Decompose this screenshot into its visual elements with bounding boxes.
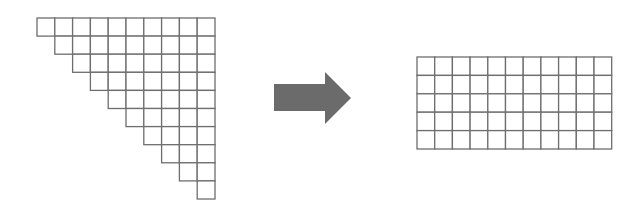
rectangle-cell [470, 112, 488, 130]
triangle-cell [90, 72, 108, 90]
rectangle-cell [523, 131, 541, 149]
rectangle-cell [452, 57, 470, 75]
triangle-cell [144, 127, 162, 145]
triangle-cell [179, 109, 197, 127]
rectangle-cell [488, 94, 506, 112]
rectangle-cell [541, 75, 559, 93]
rectangle-cell [435, 131, 453, 149]
rectangle-cell [417, 94, 435, 112]
rectangle-cell [541, 112, 559, 130]
rectangle-cell [470, 57, 488, 75]
rectangle-cell [470, 131, 488, 149]
triangle-cell [162, 145, 180, 163]
rectangle-cell [488, 112, 506, 130]
rectangle-cell [470, 75, 488, 93]
triangle-cell [162, 36, 180, 54]
rectangle-cell [523, 112, 541, 130]
rectangle-cell [594, 75, 612, 93]
rectangle-cell [541, 57, 559, 75]
staircase-triangle-grid [37, 18, 215, 199]
rectangle-cell [594, 94, 612, 112]
triangle-cell [197, 72, 215, 90]
triangle-cell [144, 36, 162, 54]
rectangle-cell [452, 131, 470, 149]
triangle-cell [179, 36, 197, 54]
triangle-cell [126, 54, 144, 72]
triangle-cell [162, 127, 180, 145]
rectangle-cell [523, 94, 541, 112]
triangle-cell [162, 90, 180, 108]
triangle-cell [73, 54, 91, 72]
rectangle-grid [417, 57, 612, 149]
triangle-cell [179, 72, 197, 90]
triangle-cell [55, 18, 73, 36]
rectangle-cell [576, 75, 594, 93]
rectangle-cell [435, 94, 453, 112]
rectangle-cell [594, 57, 612, 75]
triangle-cell [179, 90, 197, 108]
triangle-cell [55, 36, 73, 54]
rectangle-cell [576, 94, 594, 112]
rectangle-cell [576, 131, 594, 149]
triangle-cell [126, 109, 144, 127]
triangle-cell [197, 109, 215, 127]
triangle-cell [144, 54, 162, 72]
triangle-cell [197, 36, 215, 54]
rectangle-cell [506, 94, 524, 112]
triangle-cell [162, 109, 180, 127]
right-arrow-icon [274, 72, 351, 124]
rectangle-cell [594, 131, 612, 149]
triangle-cell [144, 18, 162, 36]
rectangle-cell [452, 94, 470, 112]
rectangle-cell [594, 112, 612, 130]
rectangle-cell [435, 57, 453, 75]
rectangle-cell [541, 131, 559, 149]
rectangle-cell [417, 57, 435, 75]
triangle-cell [179, 127, 197, 145]
triangle-cell [126, 72, 144, 90]
rectangle-cell [559, 112, 577, 130]
rectangle-cell [417, 131, 435, 149]
triangle-cell [73, 18, 91, 36]
triangle-cell [179, 54, 197, 72]
rectangle-cell [559, 94, 577, 112]
triangle-cell [179, 163, 197, 181]
triangle-cell [126, 18, 144, 36]
triangle-cell [144, 90, 162, 108]
triangle-cell [179, 18, 197, 36]
triangle-cell [144, 109, 162, 127]
triangle-cell [197, 127, 215, 145]
triangle-cell [108, 36, 126, 54]
rectangle-cell [488, 75, 506, 93]
rectangle-cell [506, 131, 524, 149]
triangle-cell [73, 36, 91, 54]
rectangle-cell [452, 112, 470, 130]
triangle-cell [90, 18, 108, 36]
triangle-cell [126, 90, 144, 108]
rectangle-cell [417, 75, 435, 93]
rectangle-cell [506, 57, 524, 75]
triangle-cell [108, 54, 126, 72]
rectangle-cell [470, 94, 488, 112]
arrow-shape [274, 72, 351, 124]
rectangle-cell [523, 75, 541, 93]
triangle-cell [197, 90, 215, 108]
triangle-cell [197, 181, 215, 199]
rectangle-cell [576, 57, 594, 75]
rectangle-cell [435, 112, 453, 130]
triangle-cell [90, 54, 108, 72]
rectangle-cell [417, 112, 435, 130]
triangle-cell [162, 18, 180, 36]
triangle-cell [108, 18, 126, 36]
rectangle-cell [523, 57, 541, 75]
rectangle-cell [435, 75, 453, 93]
triangle-cell [144, 72, 162, 90]
triangle-cell [162, 54, 180, 72]
rectangle-cell [559, 131, 577, 149]
triangle-cell [197, 163, 215, 181]
rectangle-cell [576, 112, 594, 130]
rectangle-cell [506, 112, 524, 130]
rectangle-cell [488, 131, 506, 149]
rectangle-cell [559, 75, 577, 93]
triangle-cell [197, 18, 215, 36]
